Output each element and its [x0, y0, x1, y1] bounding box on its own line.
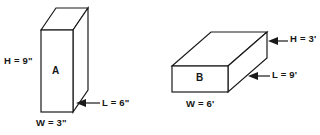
- box-b-letter: B: [196, 73, 203, 83]
- box-a-letter: A: [52, 66, 59, 76]
- box-b-length-leader: [248, 72, 270, 80]
- box-b-shape: [172, 32, 267, 92]
- geometry-figure: A H = 9" W = 3" L = 6" B H = 3' W = 6' L…: [0, 0, 320, 135]
- box-a-length-label: L = 6": [102, 98, 129, 108]
- box-a-shape: [41, 8, 88, 112]
- box-b-length-label: L = 9': [272, 70, 297, 80]
- box-a-height-label: H = 9": [4, 56, 33, 66]
- box-b-width-label: W = 6': [186, 99, 215, 109]
- box-a-width-label: W = 3": [36, 118, 67, 128]
- box-b-height-leader: [268, 37, 288, 45]
- box-b-height-label: H = 3': [290, 34, 316, 44]
- arrow-left-icon: [268, 37, 278, 45]
- prisms-svg: [0, 0, 320, 135]
